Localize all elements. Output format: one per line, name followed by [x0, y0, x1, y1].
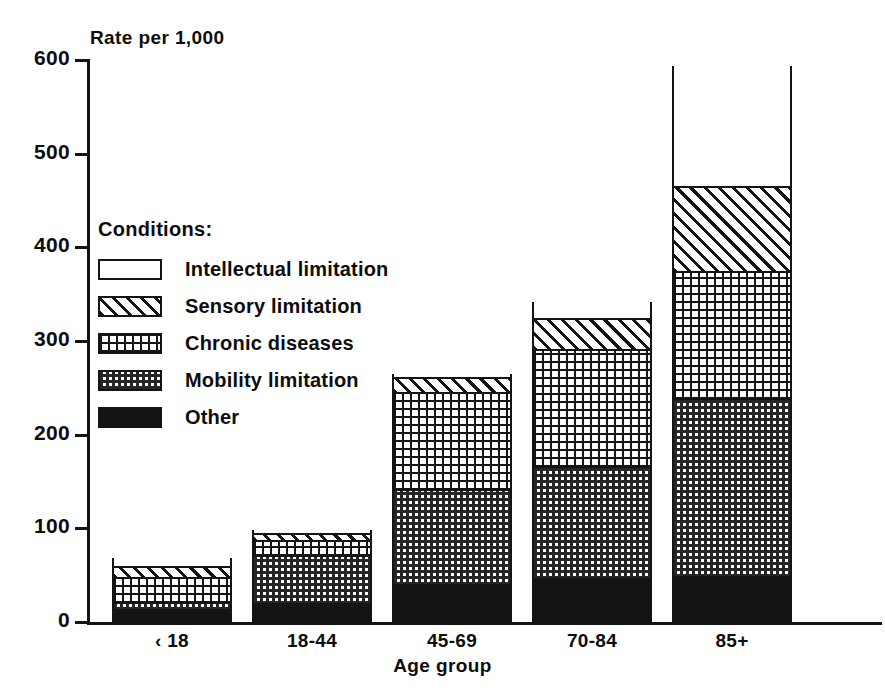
legend-title: Conditions:	[98, 218, 389, 241]
bar-segment-intellectual	[534, 302, 650, 319]
legend-swatch-intellectual-icon	[98, 259, 162, 280]
bar-segment-chronic	[254, 541, 370, 557]
legend-label: Other	[185, 406, 239, 429]
bar-segment-intellectual	[674, 66, 790, 188]
legend-item-other[interactable]: Other	[98, 399, 389, 436]
y-tick-100	[75, 527, 88, 530]
legend-label: Intellectual limitation	[185, 258, 389, 281]
legend-swatch-other-icon	[98, 407, 162, 428]
y-tick-label-0: 0	[8, 608, 70, 632]
segment-divider	[114, 609, 230, 611]
legend-items: Intellectual limitationSensory limitatio…	[98, 251, 389, 436]
segment-divider	[674, 186, 790, 188]
segment-divider	[254, 533, 370, 535]
y-tick-label-500: 500	[8, 140, 70, 164]
bar-18	[112, 558, 232, 622]
bar-segment-other	[534, 579, 650, 622]
segment-divider	[674, 271, 790, 273]
legend-item-chronic[interactable]: Chronic diseases	[98, 325, 389, 362]
y-tick-0	[75, 621, 88, 624]
legend-swatch-sensory-icon	[98, 296, 162, 317]
y-tick-300	[75, 340, 88, 343]
segment-divider	[534, 578, 650, 580]
legend-swatch-chronic-icon	[98, 333, 162, 354]
x-tick-label-2: 45-69	[392, 630, 512, 652]
segment-divider	[254, 603, 370, 605]
y-tick-label-300: 300	[8, 327, 70, 351]
x-tick-label-3: 70-84	[532, 630, 652, 652]
bar-segment-other	[114, 610, 230, 622]
legend-label: Chronic diseases	[185, 332, 354, 355]
y-tick-label-400: 400	[8, 233, 70, 257]
x-axis-title: Age group	[0, 655, 885, 677]
legend-label: Mobility limitation	[185, 369, 359, 392]
segment-divider	[674, 398, 790, 400]
segment-divider	[114, 566, 230, 568]
chart-canvas: Rate per 1,000 6005004003002001000 ‹ 181…	[0, 0, 885, 699]
segment-divider	[114, 602, 230, 604]
segment-divider	[674, 576, 790, 578]
y-tick-400	[75, 246, 88, 249]
bar-segment-chronic	[394, 393, 510, 489]
segment-divider	[254, 555, 370, 557]
y-tick-label-100: 100	[8, 514, 70, 538]
bar-segment-other	[674, 577, 790, 622]
segment-divider	[394, 584, 510, 586]
y-tick-600	[75, 59, 88, 62]
segment-divider	[394, 392, 510, 394]
segment-divider	[394, 377, 510, 379]
bar-segment-mobility	[254, 556, 370, 604]
bar-segment-chronic	[674, 272, 790, 399]
bar-segment-chronic	[534, 350, 650, 467]
bar-segment-sensory	[394, 378, 510, 393]
bar-segment-mobility	[534, 467, 650, 578]
bar-18-44	[252, 530, 372, 622]
y-tick-label-600: 600	[8, 46, 70, 70]
y-axis-title: Rate per 1,000	[90, 27, 224, 49]
segment-divider	[534, 318, 650, 320]
bar-45-69	[392, 374, 512, 622]
bar-segment-chronic	[114, 578, 230, 603]
y-tick-label-200: 200	[8, 421, 70, 445]
bar-segment-other	[394, 585, 510, 622]
segment-divider	[114, 577, 230, 579]
x-tick-label-4: 85+	[672, 630, 792, 652]
legend-item-intellectual[interactable]: Intellectual limitation	[98, 251, 389, 288]
y-tick-500	[75, 153, 88, 156]
bar-segment-mobility	[394, 490, 510, 585]
segment-divider	[534, 466, 650, 468]
y-tick-200	[75, 434, 88, 437]
x-tick-label-1: 18-44	[252, 630, 372, 652]
bar-85+	[672, 66, 792, 622]
x-axis-line	[87, 622, 882, 625]
bar-segment-mobility	[674, 399, 790, 577]
segment-divider	[254, 540, 370, 542]
legend-item-sensory[interactable]: Sensory limitation	[98, 288, 389, 325]
bar-segment-sensory	[534, 319, 650, 351]
legend-swatch-mobility-icon	[98, 370, 162, 391]
bar-70-84	[532, 302, 652, 622]
legend-item-mobility[interactable]: Mobility limitation	[98, 362, 389, 399]
bar-segment-other	[254, 604, 370, 622]
legend: Conditions: Intellectual limitationSenso…	[98, 218, 389, 436]
x-tick-label-0: ‹ 18	[112, 630, 232, 652]
segment-divider	[534, 349, 650, 351]
legend-label: Sensory limitation	[185, 295, 362, 318]
segment-divider	[394, 489, 510, 491]
bar-segment-sensory	[674, 187, 790, 271]
